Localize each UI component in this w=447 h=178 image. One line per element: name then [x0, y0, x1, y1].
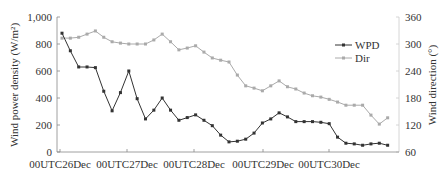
series-dir	[61, 29, 390, 125]
left-axis: 02004006008001,000	[27, 11, 60, 158]
series-wpd	[61, 32, 390, 147]
x-tick-label: 00UTC26Dec	[29, 158, 91, 170]
y2-tick-label: 60	[405, 146, 417, 158]
y-tick-label: 400	[36, 92, 53, 104]
y-tick-label: 200	[36, 119, 53, 131]
y-tick-label: 800	[36, 38, 53, 50]
svg-text:Dir: Dir	[355, 52, 370, 64]
wind-chart: 02004006008001,000 60120180240300360 00U…	[0, 0, 447, 178]
y-tick-label: 600	[36, 65, 53, 77]
y2-tick-label: 360	[405, 11, 422, 23]
legend-item-wpd: WPD	[335, 39, 380, 51]
y2-tick-label: 300	[405, 38, 422, 50]
legend-item-dir: Dir	[335, 52, 370, 64]
x-tick-label: 00UTC30Dec	[298, 158, 360, 170]
x-tick-label: 00UTC28Dec	[163, 158, 225, 170]
x-tick-label: 00UTC29Dec	[232, 158, 294, 170]
y2-axis-title: Wind direction (°)	[426, 45, 439, 126]
x-axis: 00UTC26Dec00UTC27Dec00UTC28Dec00UTC29Dec…	[29, 149, 399, 170]
y-tick-label: 1,000	[27, 11, 52, 23]
legend: WPD Dir	[335, 39, 380, 64]
svg-text:WPD: WPD	[355, 39, 380, 51]
y2-tick-label: 120	[405, 119, 422, 131]
plot-area	[61, 29, 390, 146]
x-tick-label: 00UTC27Dec	[96, 158, 158, 170]
y-axis-title: Wind power density (W/m²)	[8, 23, 21, 147]
y-tick-label: 0	[47, 146, 53, 158]
right-axis: 60120180240300360	[396, 11, 422, 158]
y2-tick-label: 240	[405, 65, 422, 77]
y2-tick-label: 180	[405, 92, 422, 104]
